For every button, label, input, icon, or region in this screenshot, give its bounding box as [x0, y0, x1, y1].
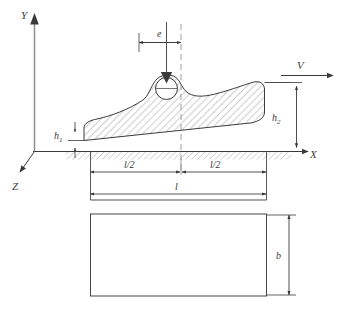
z-axis-label: Z	[12, 180, 19, 192]
velocity-label: V	[297, 59, 305, 71]
dimension-h2-label: h2	[272, 112, 281, 126]
dimension-l-total-label: l	[175, 181, 178, 192]
dimension-h2	[265, 83, 303, 148]
engineering-diagram: Y X Z e V h1	[0, 0, 340, 311]
load-arrow	[161, 22, 172, 84]
dimension-e-label: e	[157, 28, 162, 39]
ground-surface	[33, 152, 307, 160]
y-axis	[30, 13, 39, 152]
dimension-l-half-left-label: l/2	[124, 159, 135, 170]
y-axis-label: Y	[21, 9, 29, 21]
dimension-b	[267, 215, 297, 295]
dimension-h1-label: h1	[54, 130, 63, 144]
z-axis	[20, 152, 35, 173]
plan-view-rectangle	[91, 200, 267, 296]
diagram-canvas: Y X Z e V h1	[0, 0, 340, 311]
dimension-l-half-right-label: l/2	[210, 159, 221, 170]
x-axis-label: X	[309, 148, 318, 160]
dimension-b-label: b	[276, 250, 281, 261]
